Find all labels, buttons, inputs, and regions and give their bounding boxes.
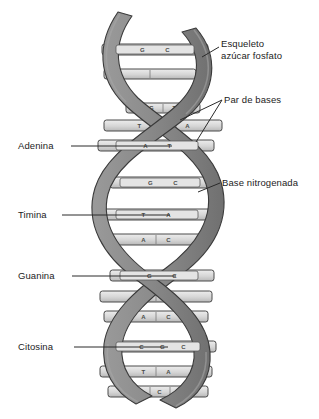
label-par-de-bases: Par de bases — [224, 94, 281, 106]
label-adenina: Adenina — [18, 140, 54, 152]
label-timina: Timina — [18, 209, 47, 221]
label-esqueleto-azucar-fosfato: Esqueleto azúcar fosfato — [221, 38, 282, 61]
svg-text:A: A — [141, 314, 147, 320]
svg-text:T: T — [138, 123, 143, 129]
svg-text:C: C — [166, 314, 172, 320]
label-guanina: Guanina — [18, 270, 55, 282]
label-base-nitrogenada: Base nitrogenada — [222, 177, 298, 189]
svg-text:C: C — [166, 237, 172, 243]
svg-text:C: C — [165, 47, 171, 53]
svg-text:G: G — [140, 47, 146, 53]
svg-text:T: T — [142, 369, 147, 375]
svg-text:C: C — [173, 180, 179, 186]
svg-text:A: A — [185, 123, 191, 129]
svg-text:C: C — [157, 389, 163, 395]
svg-text:A: A — [166, 369, 172, 375]
svg-text:G: G — [148, 180, 154, 186]
svg-text:C: C — [181, 344, 187, 350]
svg-text:A: A — [141, 237, 147, 243]
dna-double-helix-figure: GC GT TCA AT GC TA AC GC TA AC CGC TA AC… — [0, 0, 319, 419]
dna-diagram-svg: GC GT TCA AT GC TA AC GC TA AC CGC TA AC… — [0, 0, 319, 419]
label-citosina: Citosina — [18, 341, 53, 353]
